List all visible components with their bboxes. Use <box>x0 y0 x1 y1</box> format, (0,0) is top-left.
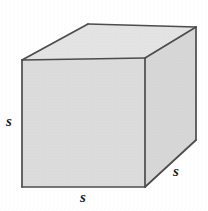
front-face-texture <box>22 58 145 187</box>
dimension-label-right: s <box>173 164 179 179</box>
cube-drawing <box>0 0 208 211</box>
dimension-label-left: s <box>6 114 12 129</box>
dimension-label-bottom: s <box>80 190 86 205</box>
cube-figure: s s s <box>0 0 208 211</box>
